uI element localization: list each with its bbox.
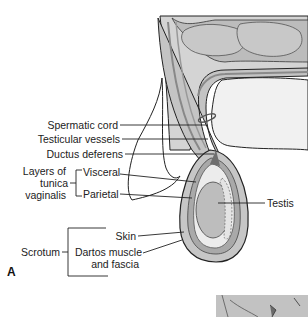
label-ductus-deferens: Ductus deferens (30, 148, 123, 160)
label-dartos-line2: and fascia (70, 258, 139, 270)
label-layers-of: Layers of (10, 165, 66, 177)
label-scrotum: Scrotum (10, 246, 60, 258)
label-skin: Skin (96, 230, 136, 242)
label-testicular-vessels: Testicular vessels (20, 133, 120, 145)
scrotum-drawing (180, 150, 248, 262)
panel-b-fragment (216, 295, 308, 317)
panel-label: A (7, 265, 16, 279)
label-vaginalis: vaginalis (10, 189, 66, 201)
label-spermatic-cord: Spermatic cord (30, 119, 118, 131)
label-parietal: Parietal (83, 188, 119, 200)
label-visceral: Visceral (83, 166, 120, 178)
label-tunica: tunica (10, 177, 68, 189)
label-dartos-line1: Dartos muscle (70, 246, 142, 258)
label-testis: Testis (267, 197, 294, 209)
